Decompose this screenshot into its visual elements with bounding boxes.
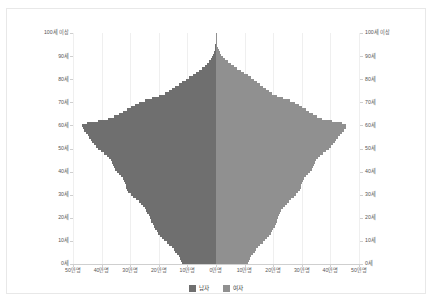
- bar-male: [169, 243, 216, 246]
- bar-male: [84, 129, 216, 132]
- bar-female: [216, 168, 312, 171]
- y-axis-label-left: 40세: [58, 169, 69, 174]
- bar-female: [216, 211, 280, 214]
- bar-female: [216, 218, 277, 221]
- bar-male: [83, 127, 216, 130]
- bar-male: [87, 122, 216, 125]
- bar-male: [88, 134, 216, 137]
- bar-female: [216, 120, 332, 123]
- legend-item-female[interactable]: 여자: [223, 285, 243, 292]
- bar-female: [216, 179, 303, 182]
- y-axis-label-left: 100세 이상: [44, 30, 69, 35]
- bar-male: [202, 67, 216, 70]
- bar-male: [145, 99, 216, 102]
- y-axis-tick-mark: [360, 102, 363, 103]
- bar-male: [98, 120, 216, 123]
- bar-row: [73, 241, 359, 244]
- bar-female: [216, 104, 299, 107]
- bar-row: [73, 150, 359, 153]
- y-axis-label-right: 50세: [365, 146, 376, 151]
- bar-row: [73, 225, 359, 228]
- bar-female: [216, 159, 316, 162]
- bar-male: [189, 76, 216, 79]
- bar-row: [73, 218, 359, 221]
- y-axis-label-left: 50세: [58, 146, 69, 151]
- bar-row: [73, 191, 359, 194]
- bar-row: [73, 147, 359, 150]
- x-axis-label: 40만명: [323, 268, 339, 273]
- bar-male: [179, 255, 216, 258]
- bar-row: [73, 230, 359, 233]
- y-axis-label-right: 90세: [365, 54, 376, 59]
- bar-male: [143, 205, 216, 208]
- bar-row: [73, 237, 359, 240]
- bar-male: [175, 250, 216, 253]
- bar-row: [73, 143, 359, 146]
- bar-female: [216, 262, 248, 265]
- bar-male: [119, 173, 216, 176]
- bar-row: [73, 99, 359, 102]
- y-axis-label-right: 30세: [365, 192, 376, 197]
- bar-male: [180, 257, 216, 260]
- bar-row: [73, 209, 359, 212]
- bar-female: [216, 111, 309, 114]
- y-axis-label-right: 10세: [365, 238, 376, 243]
- bar-row: [73, 253, 359, 256]
- y-axis-label-right: 60세: [365, 123, 376, 128]
- bar-male: [91, 138, 216, 141]
- x-axis-label: 50만명: [351, 268, 367, 273]
- bar-female: [216, 65, 234, 68]
- bar-row: [73, 97, 359, 100]
- bar-male: [135, 104, 216, 107]
- bar-row: [73, 221, 359, 224]
- bar-male: [154, 225, 216, 228]
- legend-item-male[interactable]: 남자: [189, 285, 209, 292]
- bar-male: [160, 234, 216, 237]
- x-axis-tick-mark: [330, 264, 331, 267]
- bar-male: [92, 140, 216, 143]
- y-axis-label-right: 80세: [365, 77, 376, 82]
- y-axis-label-left: 0세: [61, 261, 69, 266]
- bar-male: [112, 161, 216, 164]
- bar-male: [125, 182, 216, 185]
- bar-female: [216, 193, 296, 196]
- bar-female: [216, 79, 254, 82]
- y-axis-tick-mark: [70, 125, 73, 126]
- bar-female: [216, 99, 290, 102]
- bar-row: [73, 223, 359, 226]
- bar-female: [216, 138, 336, 141]
- bar-row: [73, 42, 359, 45]
- chart-legend: 남자 여자: [0, 285, 432, 292]
- bar-male: [150, 216, 216, 219]
- bar-male: [157, 230, 216, 233]
- x-axis-tick-mark: [159, 264, 160, 267]
- y-axis-tick-mark: [360, 241, 363, 242]
- bar-row: [73, 200, 359, 203]
- bar-row: [73, 198, 359, 201]
- bar-male: [114, 166, 216, 169]
- bar-female: [216, 90, 269, 93]
- bar-male: [167, 241, 216, 244]
- bar-row: [73, 72, 359, 75]
- bar-row: [73, 246, 359, 249]
- bar-row: [73, 95, 359, 98]
- bar-row: [73, 193, 359, 196]
- bar-female: [216, 202, 287, 205]
- bar-row: [73, 189, 359, 192]
- bar-row: [73, 159, 359, 162]
- bar-male: [119, 113, 216, 116]
- bar-male: [121, 175, 216, 178]
- y-axis-tick-mark: [70, 218, 73, 219]
- bar-male: [131, 106, 216, 109]
- bar-male: [182, 81, 216, 84]
- bar-female: [216, 122, 342, 125]
- bar-female: [216, 241, 263, 244]
- bar-row: [73, 56, 359, 59]
- bar-row: [73, 81, 359, 84]
- bar-male: [107, 154, 216, 157]
- bar-female: [216, 234, 269, 237]
- bar-row: [73, 163, 359, 166]
- bar-row: [73, 47, 359, 50]
- y-axis-label-right: 100세 이상: [365, 30, 390, 35]
- bar-female: [216, 170, 310, 173]
